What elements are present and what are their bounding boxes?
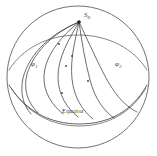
label-phi-2: φ2	[115, 61, 121, 69]
curve-marker-3	[65, 65, 67, 67]
label-source-point-subscript: 0	[88, 15, 91, 20]
sphere-diagram-svg	[0, 0, 157, 156]
ray-curve-2	[44, 22, 79, 114]
label-phi-1: φ1	[31, 61, 37, 69]
label-phi-1-subscript: 1	[35, 64, 38, 69]
figure-root: S0 φ1 φ2 Equator	[0, 0, 157, 156]
label-equator: Equator	[62, 108, 84, 115]
curve-marker-2	[71, 55, 73, 57]
curve-marker-1	[58, 43, 60, 45]
label-phi-2-subscript: 2	[119, 64, 122, 69]
ray-curve-4	[72, 22, 93, 119]
curve-marker-5	[61, 92, 63, 94]
label-source-point: S0	[84, 12, 90, 20]
upper-latitude-arc	[9, 35, 147, 70]
curve-marker-4	[87, 80, 89, 82]
source-point-marker	[77, 20, 81, 24]
